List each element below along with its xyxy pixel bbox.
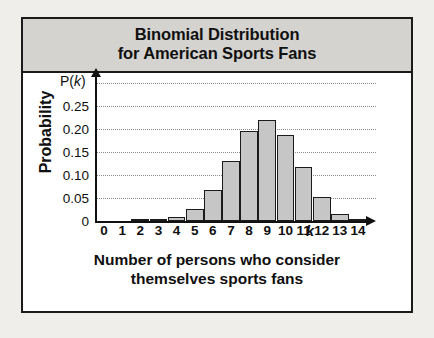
x-axis-tick-label: 3 — [155, 223, 163, 238]
y-axis-tick-label: 0.05 — [63, 190, 89, 205]
chart-title-line-1: Binomial Distribution — [27, 25, 407, 44]
bar — [295, 167, 313, 221]
chart-caption-line-2: themselves sports fans — [23, 270, 411, 289]
bar — [222, 161, 240, 221]
y-axis-symbol-label: P(k) — [60, 73, 86, 89]
y-axis-tick-label: 0.10 — [63, 167, 89, 182]
plot-body: Probability P(k) 00.050.100.150.200.25 0… — [23, 73, 411, 311]
x-axis-tick-label: 6 — [209, 223, 217, 238]
chart-caption-line-1: Number of persons who consider — [23, 251, 411, 270]
y-axis-arrow-icon — [91, 68, 101, 77]
y-axis-tick-label: 0.20 — [63, 121, 89, 136]
x-axis-symbol-label: k — [306, 223, 314, 239]
chart-title-band: Binomial Distribution for American Sport… — [23, 19, 411, 73]
bar — [331, 214, 349, 221]
y-axis-line — [95, 75, 97, 221]
x-axis-tick-label: 13 — [332, 223, 347, 238]
chart-plot-area: 00.050.100.150.200.25 — [95, 83, 376, 221]
x-axis-tick-label: 5 — [191, 223, 199, 238]
x-axis-tick-label: 0 — [100, 223, 108, 238]
bar — [204, 190, 222, 221]
y-axis-tick-label: 0.15 — [63, 144, 89, 159]
bar-series — [95, 83, 376, 221]
x-axis-tick-label: 2 — [137, 223, 145, 238]
x-axis-tick-label: 7 — [227, 223, 235, 238]
y-axis-tick-label: 0 — [81, 213, 89, 228]
x-axis-tick-label: 4 — [173, 223, 181, 238]
bar — [240, 131, 258, 221]
x-axis-tick-label: 8 — [245, 223, 253, 238]
x-axis-tick-label: 14 — [350, 223, 365, 238]
y-axis-tick-label: 0.25 — [63, 98, 89, 113]
x-axis-tick-label: 1 — [118, 223, 126, 238]
x-axis-tick-label: 10 — [278, 223, 293, 238]
bar — [186, 209, 204, 221]
bar — [258, 120, 276, 221]
x-axis-tick-label: 12 — [314, 223, 329, 238]
bar — [277, 135, 295, 221]
figure-panel: Binomial Distribution for American Sport… — [21, 17, 413, 313]
bar — [313, 197, 331, 220]
chart-caption: Number of persons who consider themselve… — [23, 251, 411, 289]
x-axis-tick-labels: 01234567891011121314 — [95, 223, 376, 243]
y-axis-title: Probability — [37, 67, 55, 197]
x-axis-tick-label: 9 — [264, 223, 272, 238]
chart-title-line-2: for American Sports Fans — [27, 44, 407, 63]
